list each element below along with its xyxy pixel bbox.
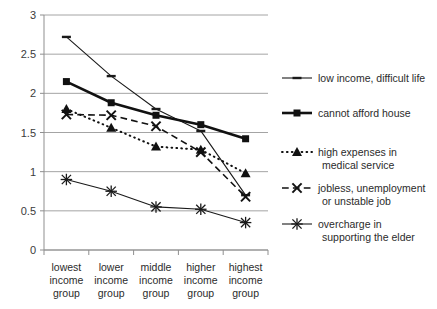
data-point-marker-triangle bbox=[241, 168, 251, 177]
series-line bbox=[62, 110, 250, 201]
data-point-marker-asterisk bbox=[291, 218, 303, 230]
y-axis-tick-label: 2 bbox=[30, 87, 36, 99]
x-axis-tick-label: higher bbox=[186, 261, 216, 273]
legend-label: supporting the elder bbox=[322, 231, 415, 243]
x-axis-tick-label: lowest bbox=[52, 261, 82, 273]
y-gridlines: 00.511.522.53 bbox=[21, 9, 268, 256]
data-point-marker-square bbox=[153, 112, 160, 119]
data-point-marker-asterisk bbox=[195, 204, 207, 216]
series-polyline bbox=[66, 180, 245, 223]
legend-item[interactable]: low income, difficult life bbox=[282, 72, 425, 84]
data-point-marker-asterisk bbox=[240, 217, 252, 229]
y-axis-tick-label: 0 bbox=[30, 244, 36, 256]
legend-item[interactable]: high expenses inmedical service bbox=[282, 146, 397, 171]
y-axis-tick-label: 1 bbox=[30, 166, 36, 178]
legend-item[interactable]: cannot afford house bbox=[282, 107, 411, 119]
data-point-marker-asterisk bbox=[61, 174, 73, 186]
series-line bbox=[61, 174, 252, 229]
x-axis-tick-label: group bbox=[143, 287, 170, 299]
legend: low income, difficult lifecannot afford … bbox=[282, 72, 425, 243]
line-chart: 00.511.522.53lowestincomegrouplowerincom… bbox=[0, 0, 437, 309]
legend-item[interactable]: overcharge insupporting the elder bbox=[282, 218, 415, 243]
legend-label: or unstable job bbox=[322, 195, 391, 207]
x-axis-tick-label: group bbox=[53, 287, 80, 299]
x-axis-tick-label: income bbox=[139, 274, 173, 286]
x-axis-tick-label: income bbox=[184, 274, 218, 286]
x-axis-tick-label: group bbox=[98, 287, 125, 299]
legend-item[interactable]: jobless, unemploymentor unstable job bbox=[282, 182, 425, 207]
x-axis-tick-label: middle bbox=[141, 261, 172, 273]
legend-label: cannot afford house bbox=[318, 107, 411, 119]
data-point-marker-square bbox=[197, 121, 204, 128]
x-axis-tick-label: income bbox=[94, 274, 128, 286]
chart-container: 00.511.522.53lowestincomegrouplowerincom… bbox=[0, 0, 437, 309]
x-axis-tick-label: lower bbox=[99, 261, 125, 273]
data-point-marker-asterisk bbox=[105, 186, 117, 198]
y-axis-tick-label: 2.5 bbox=[21, 48, 36, 60]
x-axis-category-labels: lowestincomegrouplowerincomegroupmiddlei… bbox=[49, 261, 262, 299]
data-point-marker-square bbox=[294, 110, 301, 117]
x-axis-tick-label: income bbox=[49, 274, 83, 286]
x-axis-tick-label: highest bbox=[229, 261, 263, 273]
x-axis-tick-label: income bbox=[229, 274, 263, 286]
data-point-marker-square bbox=[242, 135, 249, 142]
legend-label: jobless, unemployment bbox=[317, 182, 425, 194]
legend-label: medical service bbox=[322, 159, 395, 171]
data-point-marker-triangle bbox=[292, 147, 302, 156]
data-point-marker-asterisk bbox=[150, 201, 162, 213]
data-point-marker-square bbox=[63, 78, 70, 85]
data-point-marker-x bbox=[241, 192, 250, 201]
y-axis-tick-label: 3 bbox=[30, 9, 36, 21]
y-axis-tick-label: 1.5 bbox=[21, 127, 36, 139]
legend-label: high expenses in bbox=[318, 146, 397, 158]
data-point-marker-square bbox=[108, 99, 115, 106]
legend-label: overcharge in bbox=[318, 218, 382, 230]
x-axis-tick-label: group bbox=[187, 287, 214, 299]
x-axis-tick-label: group bbox=[232, 287, 259, 299]
y-axis-tick-label: 0.5 bbox=[21, 205, 36, 217]
legend-label: low income, difficult life bbox=[318, 72, 425, 84]
